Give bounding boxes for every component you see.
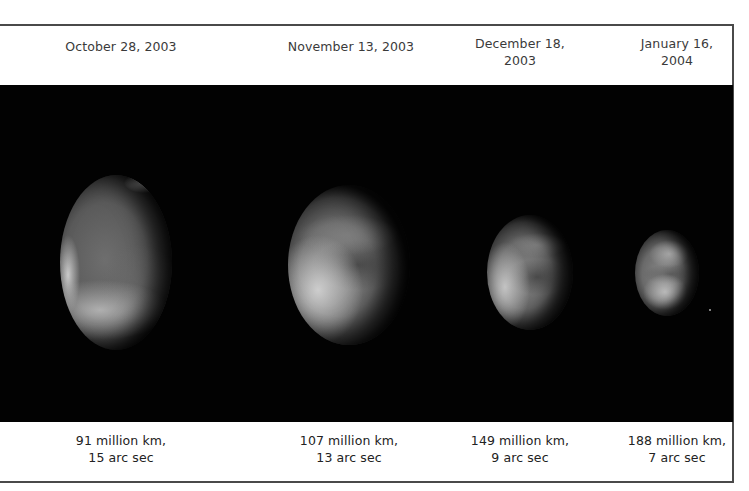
distance-label-3: 149 million km, 9 arc sec [471, 432, 569, 466]
date-label-1: October 28, 2003 [65, 38, 176, 55]
date-label-2: November 13, 2003 [288, 38, 414, 55]
date-label-2-line-1: November 13, 2003 [288, 38, 414, 55]
mars-image-dec-18-2003 [487, 215, 573, 330]
distance-label-1: 91 million km, 15 arc sec [76, 432, 166, 466]
date-label-3-line-1: December 18, [475, 35, 565, 52]
distance-label-2-line-1: 107 million km, [300, 432, 398, 449]
date-label-4-line-1: January 16, [641, 35, 713, 52]
distance-label-3-line-2: 9 arc sec [471, 449, 569, 466]
date-label-4-line-2: 2004 [641, 52, 713, 69]
date-label-4: January 16, 2004 [641, 35, 713, 69]
date-label-3-line-2: 2003 [475, 52, 565, 69]
telescope-image-band [0, 85, 733, 422]
distance-label-4: 188 million km, 7 arc sec [628, 432, 726, 466]
distance-label-4-line-1: 188 million km, [628, 432, 726, 449]
mars-image-oct-28-2003 [60, 175, 172, 350]
mars-image-jan-16-2004 [635, 230, 699, 316]
mars-image-nov-13-2003 [288, 185, 410, 345]
distance-label-3-line-1: 149 million km, [471, 432, 569, 449]
distance-label-2-line-2: 13 arc sec [300, 449, 398, 466]
date-label-1-line-1: October 28, 2003 [65, 38, 176, 55]
top-rule [0, 24, 734, 26]
distance-label-2: 107 million km, 13 arc sec [300, 432, 398, 466]
distance-label-1-line-2: 15 arc sec [76, 449, 166, 466]
distance-label-4-line-2: 7 arc sec [628, 449, 726, 466]
distance-label-1-line-1: 91 million km, [76, 432, 166, 449]
moon-dot [709, 309, 711, 311]
date-label-3: December 18, 2003 [475, 35, 565, 69]
bottom-rule [0, 481, 734, 483]
mars-apparent-size-figure: October 28, 2003 November 13, 2003 Decem… [0, 0, 749, 491]
